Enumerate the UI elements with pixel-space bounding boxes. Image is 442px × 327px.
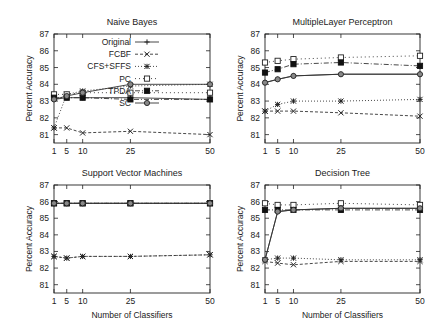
- series-cfs-sffs: [262, 256, 422, 263]
- x-tick-label: 50: [415, 296, 425, 306]
- x-axis-label: Number of Classifiers: [91, 310, 172, 320]
- x-tick-label: 10: [289, 296, 299, 306]
- y-tick-label: 82: [40, 113, 50, 123]
- x-tick-label: 50: [205, 296, 215, 306]
- x-axis-label: Number of Classifiers: [302, 310, 383, 320]
- data-point: [51, 201, 56, 206]
- legend-marker: [144, 39, 149, 44]
- data-point: [80, 201, 85, 206]
- data-point: [291, 62, 296, 67]
- y-axis-label: Percent Accuracy: [235, 205, 245, 272]
- y-tick-label: 86: [40, 197, 50, 207]
- y-tick-label: 86: [40, 46, 50, 56]
- data-point: [275, 202, 280, 207]
- data-point: [262, 70, 267, 75]
- series-line: [265, 208, 420, 259]
- plot-frame: [54, 34, 210, 143]
- data-point: [417, 206, 422, 211]
- y-tick-label: 81: [251, 280, 261, 290]
- chart-title: MultipleLayer Perceptron: [292, 17, 392, 27]
- y-tick-label: 85: [251, 213, 261, 223]
- data-point: [275, 58, 280, 63]
- data-point: [80, 254, 85, 259]
- legend-marker: [144, 76, 149, 81]
- data-point: [275, 256, 280, 261]
- y-tick-label: 84: [40, 230, 50, 240]
- y-tick-label: 81: [251, 130, 261, 140]
- x-tick-label: 50: [205, 146, 215, 156]
- data-point: [262, 109, 267, 114]
- data-point: [338, 257, 343, 262]
- data-point: [64, 256, 69, 261]
- chart-title: Naive Bayes: [107, 17, 158, 27]
- y-tick-label: 81: [40, 280, 50, 290]
- data-point: [207, 252, 212, 257]
- legend-label: SC: [119, 98, 131, 108]
- y-tick-label: 81: [40, 130, 50, 140]
- data-point: [417, 53, 422, 58]
- data-point: [291, 57, 296, 62]
- series-fcbf: [51, 125, 212, 137]
- data-point: [275, 209, 280, 214]
- data-point: [207, 82, 212, 87]
- y-tick-label: 82: [251, 113, 261, 123]
- x-tick-label: 5: [275, 296, 280, 306]
- x-tick-label: 5: [64, 146, 69, 156]
- legend-label: TPDA: [108, 86, 131, 96]
- data-point: [417, 257, 422, 262]
- data-point: [80, 90, 85, 95]
- x-tick-label: 10: [289, 146, 299, 156]
- y-tick-label: 85: [40, 213, 50, 223]
- legend-label: PC: [119, 74, 131, 84]
- figure: Naive Bayes8182838485868715102550Percent…: [0, 0, 442, 327]
- plot-frame: [265, 34, 420, 143]
- data-point: [291, 207, 296, 212]
- y-tick-label: 87: [40, 29, 50, 39]
- x-tick-label: 1: [52, 146, 57, 156]
- data-point: [338, 55, 343, 60]
- subplot-1: Naive Bayes8182838485868715102550Percent…: [24, 17, 215, 156]
- legend-marker: [144, 88, 149, 93]
- y-tick-label: 84: [251, 79, 261, 89]
- data-point: [291, 73, 296, 78]
- data-point: [207, 201, 212, 206]
- data-point: [338, 206, 343, 211]
- y-tick-label: 85: [40, 63, 50, 73]
- y-axis-label: Percent Accuracy: [24, 55, 34, 122]
- x-tick-label: 10: [78, 296, 88, 306]
- data-point: [262, 201, 267, 206]
- data-point: [338, 98, 343, 103]
- y-tick-label: 86: [251, 46, 261, 56]
- series-pc: [51, 90, 212, 97]
- x-tick-label: 1: [263, 146, 268, 156]
- legend-label: Original: [102, 37, 131, 47]
- data-point: [275, 67, 280, 72]
- data-point: [275, 102, 280, 107]
- data-point: [417, 72, 422, 77]
- x-tick-label: 25: [126, 296, 136, 306]
- series-original: [262, 206, 422, 263]
- series-line: [265, 208, 420, 259]
- x-tick-label: 5: [275, 146, 280, 156]
- data-point: [128, 201, 133, 206]
- y-tick-label: 83: [40, 96, 50, 106]
- data-point: [338, 60, 343, 65]
- data-point: [51, 254, 56, 259]
- data-point: [207, 90, 212, 95]
- x-tick-label: 50: [415, 146, 425, 156]
- legend-label: CFS+SFFS: [87, 61, 131, 71]
- legend-marker: [144, 100, 149, 105]
- data-point: [262, 60, 267, 65]
- y-tick-label: 85: [251, 63, 261, 73]
- subplot-2: MultipleLayer Perceptron8182838485868715…: [235, 17, 425, 156]
- y-tick-label: 82: [251, 263, 261, 273]
- series-cfs-sffs: [51, 252, 212, 261]
- x-tick-label: 25: [126, 146, 136, 156]
- data-point: [338, 72, 343, 77]
- data-point: [262, 80, 267, 85]
- y-axis-label: Percent Accuracy: [24, 205, 34, 272]
- data-point: [291, 256, 296, 261]
- subplot-3: Support Vector Machines81828384858687151…: [24, 168, 215, 320]
- y-tick-label: 87: [251, 180, 261, 190]
- chart-title: Decision Tree: [315, 168, 370, 178]
